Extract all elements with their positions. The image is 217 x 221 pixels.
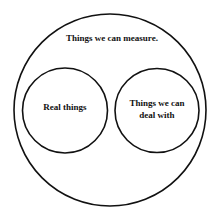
outer-label: Things we can measure.: [66, 33, 158, 43]
right-label-line1: Things we can: [129, 98, 184, 108]
right-label-line2: deal with: [139, 110, 174, 120]
left-label: Real things: [43, 102, 87, 112]
venn-diagram: Things we can measure. Real things Thing…: [0, 0, 217, 221]
